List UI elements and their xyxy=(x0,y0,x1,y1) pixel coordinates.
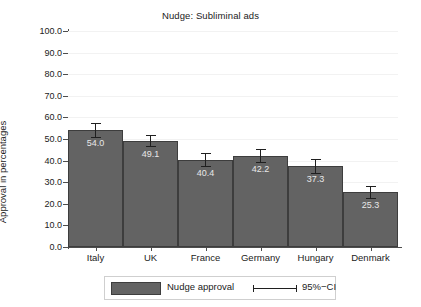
bar-slot: 37.3 xyxy=(288,31,343,247)
bar-slot: 42.2 xyxy=(233,31,288,247)
error-bar-cap-upper xyxy=(366,186,376,187)
error-bar xyxy=(150,135,151,148)
error-bar xyxy=(315,159,316,173)
error-bar-cap-upper xyxy=(256,149,266,150)
bar-value-label: 42.2 xyxy=(233,164,288,174)
y-axis-tick-label: 80.0 xyxy=(44,68,62,80)
error-bar-cap-lower xyxy=(256,162,266,163)
legend-bar-label: Nudge approval xyxy=(167,281,234,292)
error-bar xyxy=(370,186,371,199)
bar-value-label: 40.4 xyxy=(178,168,233,178)
legend-errorbar-icon xyxy=(253,288,297,289)
error-bar-cap-lower xyxy=(311,173,321,174)
x-axis-tick-mark xyxy=(206,247,207,251)
bar-slot: 49.1 xyxy=(123,31,178,247)
error-bar-cap-upper xyxy=(91,123,101,124)
error-bar-cap-lower xyxy=(366,198,376,199)
x-axis-tick-mark xyxy=(316,247,317,251)
legend-ci-label: 95%−CI xyxy=(302,281,336,292)
chart-legend: Nudge approval 95%−CI xyxy=(104,276,336,300)
error-bar-cap-lower xyxy=(146,146,156,147)
x-axis-tick-mark xyxy=(96,247,97,251)
y-axis-tick-labels: 0.010.020.030.040.050.060.070.080.090.01… xyxy=(0,0,62,307)
chart-title: Nudge: Subliminal ads xyxy=(0,10,421,21)
y-axis-tick-label: 10.0 xyxy=(44,219,62,231)
y-axis-tick-label: 40.0 xyxy=(44,155,62,167)
x-axis-category-label: France xyxy=(178,252,233,263)
error-bar xyxy=(95,123,96,138)
legend-bar-swatch xyxy=(111,282,161,295)
x-axis-category-label: Germany xyxy=(233,252,288,263)
bar-slot: 40.4 xyxy=(178,31,233,247)
bar-value-label: 25.3 xyxy=(343,200,398,210)
error-bar-cap-upper xyxy=(311,159,321,160)
plot-area: 54.049.140.442.237.325.3 xyxy=(68,31,398,247)
y-axis-tick-label: 100.0 xyxy=(39,25,62,37)
x-axis-line xyxy=(64,247,402,248)
x-axis-tick-mark xyxy=(371,247,372,251)
legend-errorbar-cap-left xyxy=(253,285,254,292)
bar-value-label: 37.3 xyxy=(288,174,343,184)
error-bar-cap-lower xyxy=(201,166,211,167)
bar-value-label: 49.1 xyxy=(123,149,178,159)
bar-value-label: 54.0 xyxy=(68,138,123,148)
y-axis-tick-label: 60.0 xyxy=(44,111,62,123)
error-bar xyxy=(205,153,206,167)
y-axis-tick-label: 90.0 xyxy=(44,47,62,59)
x-axis-category-label: Denmark xyxy=(343,252,398,263)
x-axis-category-label: Hungary xyxy=(288,252,343,263)
x-axis-tick-mark xyxy=(151,247,152,251)
x-axis-category-label: UK xyxy=(123,252,178,263)
chart-figure: Nudge: Subliminal ads Approval in percen… xyxy=(0,0,421,307)
error-bar xyxy=(260,149,261,163)
legend-errorbar-cap-right xyxy=(296,285,297,292)
error-bar-cap-upper xyxy=(146,135,156,136)
x-axis-tick-mark xyxy=(261,247,262,251)
y-axis-tick-label: 70.0 xyxy=(44,90,62,102)
x-axis-category-label: Italy xyxy=(68,252,123,263)
error-bar-cap-upper xyxy=(201,153,211,154)
y-axis-tick-label: 0.0 xyxy=(49,241,62,253)
bar-slot: 54.0 xyxy=(68,31,123,247)
error-bar-cap-lower xyxy=(91,137,101,138)
bar-slot: 25.3 xyxy=(343,31,398,247)
y-axis-tick-label: 50.0 xyxy=(44,133,62,145)
y-axis-tick-label: 30.0 xyxy=(44,176,62,188)
y-axis-tick-label: 20.0 xyxy=(44,198,62,210)
